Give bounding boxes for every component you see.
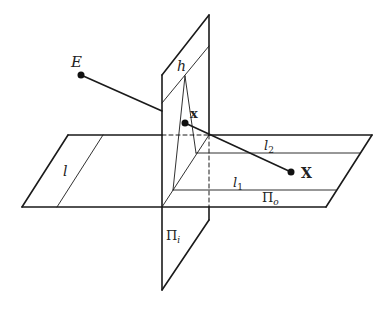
ground-plane (22, 135, 372, 207)
ground-diagonal (162, 135, 209, 207)
label-object-plane-sub: o (273, 197, 279, 207)
image-point (182, 120, 189, 127)
label-object-plane-main: Π (262, 190, 273, 205)
projection-diagram: E h x X l l2 l1 Πo Πi (0, 0, 390, 310)
horizon-line (162, 46, 209, 103)
label-line-l1-sub: 1 (237, 182, 243, 192)
label-eye: E (70, 53, 82, 71)
label-line-l: l (63, 163, 67, 179)
label-line-l2: l2 (264, 138, 274, 155)
label-object-plane: Πo (262, 190, 279, 207)
ray-eye-segment (81, 75, 162, 111)
label-object-point: X (301, 165, 312, 181)
label-horizon: h (177, 58, 186, 74)
label-image-point: x (190, 106, 198, 121)
label-line-l2-sub: 2 (268, 145, 274, 155)
label-line-l1: l1 (233, 175, 243, 192)
label-image-plane-sub: i (177, 235, 180, 245)
vanishing-line-left (173, 76, 185, 190)
label-image-plane-main: Π (166, 228, 177, 243)
label-image-plane: Πi (166, 228, 180, 245)
eye-point (78, 72, 85, 79)
object-point (288, 169, 295, 176)
picture-plane (162, 15, 209, 290)
